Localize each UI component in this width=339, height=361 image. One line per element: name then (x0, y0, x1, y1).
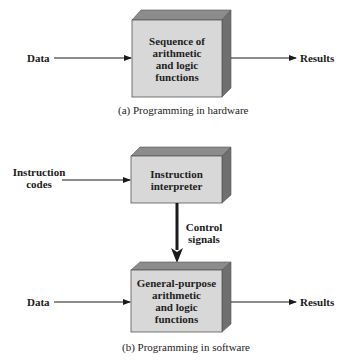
general-purpose-box-text: General-purpose arithmetic and logic fun… (131, 277, 222, 325)
results-label-a: Results (300, 52, 334, 64)
interpreter-box-text: Instruction interpreter (131, 168, 222, 192)
data-label-b: Data (27, 296, 50, 308)
control-signals-label: Control signals (184, 221, 224, 245)
caption-b: (b) Programming in software (122, 341, 250, 353)
results-label-b: Results (300, 296, 334, 308)
instruction-codes-label: Instruction codes (12, 166, 66, 190)
control-signals-arrowhead (171, 248, 183, 263)
data-label-a: Data (27, 52, 50, 64)
hardware-box-text: Sequence of arithmetic and logic functio… (132, 35, 222, 83)
caption-a: (a) Programming in hardware (118, 104, 248, 116)
